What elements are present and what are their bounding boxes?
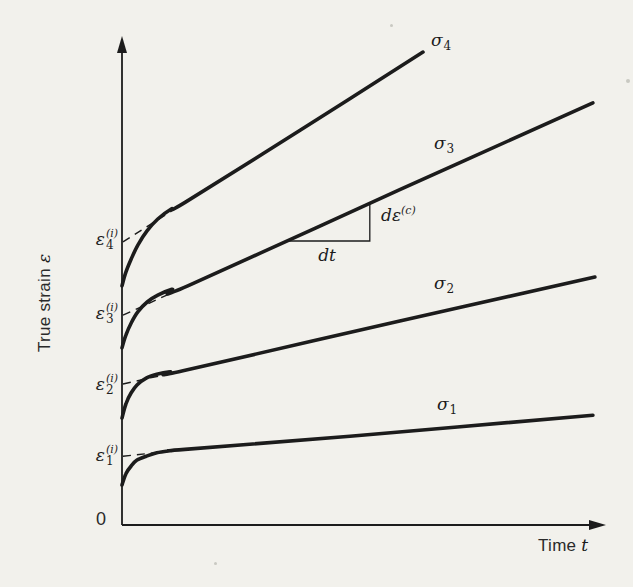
de-symbol: dε <box>381 205 401 225</box>
epsilon-subscript: 1 <box>106 455 114 467</box>
origin-label: 0 <box>96 509 106 530</box>
sigma-symbol: σ <box>434 273 446 293</box>
epsilon-superscript: (i) <box>106 302 118 313</box>
curve-sigma-3 <box>122 103 593 348</box>
creep-chart-svg <box>0 0 633 587</box>
curve-label-sigma-4: σ4 <box>431 30 450 50</box>
sup-sub-stack: (i)2 <box>106 373 118 396</box>
sigma-subscript: 4 <box>444 39 452 53</box>
curve-label-sigma-3: σ3 <box>434 133 453 153</box>
epsilon-superscript: (i) <box>106 228 118 239</box>
sigma-subscript: 2 <box>447 282 455 296</box>
scan-speckle <box>390 24 393 27</box>
epsilon-symbol: ε <box>96 303 105 323</box>
y-axis-title-symbol: ε <box>34 254 54 263</box>
x-axis-arrow <box>589 520 606 530</box>
y-axis-arrow <box>117 36 127 53</box>
epsilon-superscript: (i) <box>106 444 118 455</box>
intercept-label-eps-1: ε(i)1 <box>50 442 118 468</box>
epsilon-superscript: (i) <box>106 373 118 384</box>
scan-speckle <box>626 79 630 83</box>
epsilon-symbol: ε <box>96 445 105 465</box>
intercept-label-eps-2: ε(i)2 <box>50 371 118 397</box>
sigma-symbol: σ <box>431 30 443 50</box>
epsilon-symbol: ε <box>96 229 105 249</box>
creep-curves-figure: σ4 σ3 σ2 σ1 ε(i)4 ε(i)3 ε(i)2 ε(i)1 dt d… <box>0 0 633 587</box>
curve-sigma-4 <box>122 52 423 286</box>
y-axis-title: True strainε <box>34 254 55 352</box>
epsilon-subscript: 2 <box>106 384 114 396</box>
x-axis-title-text: Time <box>538 536 576 555</box>
intercept-label-eps-3: ε(i)3 <box>50 300 118 326</box>
curve-sigma-2 <box>122 277 595 418</box>
curve-label-sigma-2: σ2 <box>434 273 453 293</box>
sup-sub-stack: (i)3 <box>106 302 118 325</box>
intercept-label-eps-4: ε(i)4 <box>50 226 118 252</box>
x-axis-title: Timet <box>538 535 588 556</box>
curve-sigma-1 <box>122 415 593 485</box>
sigma-symbol: σ <box>434 133 446 153</box>
curve-label-sigma-1: σ1 <box>437 394 456 414</box>
scan-speckle <box>214 562 217 565</box>
epsilon-subscript: 4 <box>106 239 114 251</box>
sup-sub-stack: (i)1 <box>106 444 118 467</box>
x-axis-title-symbol: t <box>581 535 588 555</box>
epsilon-subscript: 3 <box>106 313 114 325</box>
sigma-symbol: σ <box>437 394 449 414</box>
sigma-subscript: 3 <box>447 142 455 156</box>
epsilon-symbol: ε <box>96 374 105 394</box>
sup-sub-stack: (i)4 <box>106 228 118 251</box>
de-superscript: (c) <box>401 204 416 217</box>
slope-dt-label: dt <box>300 245 354 265</box>
sigma-subscript: 1 <box>450 403 458 417</box>
y-axis-title-text: True strain <box>35 268 54 352</box>
slope-de-label: dε(c) <box>381 204 416 225</box>
